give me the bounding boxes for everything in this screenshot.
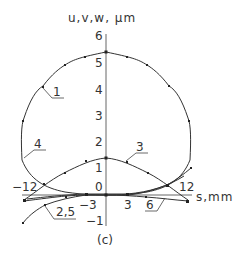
x-axis-title: s,mm [196,190,233,204]
y-tick-minus1: −1 [86,214,104,228]
x-tick-3: 3 [124,198,132,212]
leader-4 [24,150,46,158]
curve-label-6: 6 [146,198,154,212]
x-tick-minus3: −3 [79,198,97,212]
y-tick-5: 5 [95,56,103,70]
curve-label-2-5: 2,5 [56,205,75,219]
x-tick-minus12: −12 [12,180,37,194]
displacement-chart: u,v,w, μm s,mm 6 5 4 3 2 1 0 −1 −12 −3 3… [0,0,246,257]
curve-label-3: 3 [136,140,144,154]
y-tick-2: 2 [95,135,103,149]
y-tick-4: 4 [95,83,103,97]
x-tick-12: 12 [179,180,194,194]
y-tick-1: 1 [95,161,103,175]
y-tick-3: 3 [95,109,103,123]
y-tick-0: 0 [95,180,103,194]
figure-caption: (c) [97,233,113,247]
curve-label-1: 1 [53,85,61,99]
leader-3 [126,153,148,161]
y-tick-6: 6 [95,29,103,43]
curve-label-4: 4 [34,137,42,151]
y-axis-title: u,v,w, μm [68,11,136,25]
